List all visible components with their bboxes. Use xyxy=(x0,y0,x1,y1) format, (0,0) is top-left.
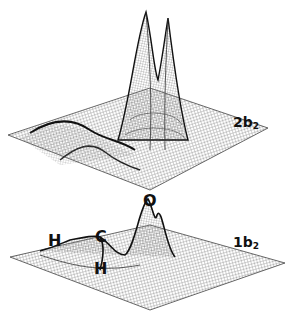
atom-label-h-left: H xyxy=(48,233,61,249)
atom-label-h-bottom: H xyxy=(94,261,107,277)
atom-label-c: C xyxy=(95,229,107,245)
orbital-label-2b2: 2b2 xyxy=(233,115,259,131)
orbital-label-1b2: 1b2 xyxy=(233,235,259,251)
orbital-plot-1b2: H C H O 1b2 xyxy=(0,185,291,313)
atom-label-o: O xyxy=(143,193,157,209)
orbital-plot-2b2: 2b2 xyxy=(0,0,291,200)
wireframe-surface-2b2 xyxy=(0,0,291,200)
